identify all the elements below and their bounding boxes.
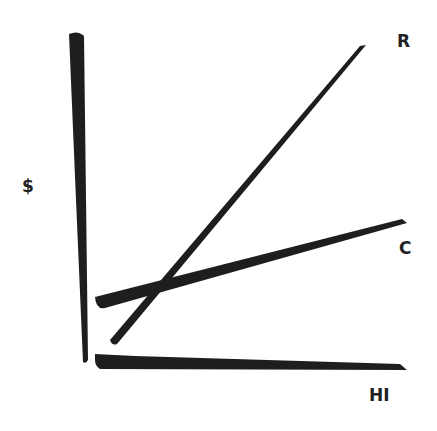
- cost-line: [95, 219, 407, 308]
- y-axis: [69, 32, 88, 362]
- y-axis-label: $: [22, 178, 34, 195]
- x-axis: [95, 354, 407, 370]
- revenue-label: R: [397, 33, 410, 50]
- x-axis-label: HI: [369, 387, 390, 404]
- revenue-line: [110, 45, 366, 345]
- diagram-canvas: [0, 0, 437, 431]
- cost-label: C: [399, 240, 411, 257]
